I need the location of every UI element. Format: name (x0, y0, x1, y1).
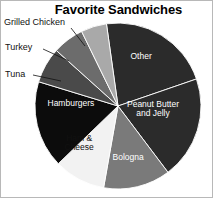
callout-label: Turkey (5, 42, 32, 52)
slice-label: Other (131, 52, 152, 62)
slice-label: Peanut Butter and Jelly (127, 100, 179, 119)
slice-label: Hamburgers (48, 99, 95, 109)
pie-chart-svg (1, 1, 213, 198)
slice-label: Ham & Cheese (65, 134, 94, 153)
pie-chart-figure: Favorite Sandwiches OtherPeanut Butter a… (0, 0, 213, 198)
slice-label: Bologna (113, 153, 144, 163)
callout-label: Grilled Chicken (4, 17, 65, 27)
callout-label: Tuna (5, 69, 25, 79)
